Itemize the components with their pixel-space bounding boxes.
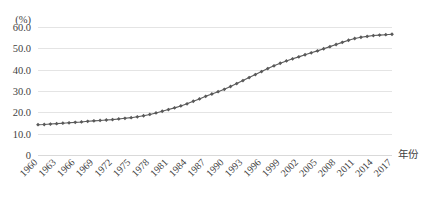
data-point-marker [191, 99, 195, 103]
x-axis-tick-label: 1978 [129, 157, 151, 179]
data-point-marker [117, 117, 121, 121]
data-point-marker [142, 114, 146, 118]
data-point-marker [309, 51, 313, 55]
x-axis-tick-label: 1993 [222, 157, 244, 179]
data-point-marker [210, 92, 214, 96]
data-point-marker [253, 73, 257, 77]
x-axis-tick-label: 1963 [36, 157, 58, 179]
data-point-marker [123, 116, 127, 120]
data-point-marker [378, 33, 382, 37]
gridlines [38, 28, 392, 156]
data-point-marker [167, 108, 171, 112]
data-point-marker [353, 37, 357, 41]
x-axis-tick-label: 1990 [204, 157, 226, 179]
data-point-marker [297, 55, 301, 59]
y-axis-tick-label: 40.0 [13, 65, 31, 76]
chart-canvas: 60.050.040.030.020.010.00 19601963196619… [0, 0, 430, 201]
urbanization-series-line [38, 34, 392, 124]
data-point-marker [303, 53, 307, 57]
y-axis-tick-label: 10.0 [13, 129, 31, 140]
data-point-marker [49, 122, 53, 126]
data-point-marker [73, 120, 77, 124]
data-point-marker [285, 59, 289, 63]
data-point-marker [42, 123, 46, 127]
y-axis-tick-label: 20.0 [13, 107, 31, 118]
data-point-marker [247, 76, 251, 80]
data-point-marker [241, 79, 245, 83]
x-axis-title: 年份 [398, 148, 419, 160]
data-point-marker [129, 116, 133, 120]
data-point-marker [185, 102, 189, 106]
data-point-marker [328, 45, 332, 49]
data-point-marker [86, 119, 90, 123]
data-point-marker [334, 43, 338, 47]
data-point-marker [148, 113, 152, 117]
data-point-marker [111, 118, 115, 122]
data-point-marker [36, 123, 40, 127]
data-point-marker [135, 115, 139, 119]
data-point-marker [371, 34, 375, 38]
data-point-marker [390, 32, 394, 36]
data-point-marker [229, 85, 233, 89]
x-axis-tick-label: 1960 [17, 157, 39, 179]
data-point-marker [198, 97, 202, 101]
data-point-marker [154, 111, 158, 115]
data-point-marker [322, 47, 326, 51]
data-point-marker [384, 33, 388, 37]
x-axis-tick-label: 1984 [167, 157, 189, 179]
data-point-marker [291, 57, 295, 61]
y-axis-tick-label: 50.0 [13, 43, 31, 54]
data-point-marker [67, 121, 71, 125]
x-axis-tick-label: 1972 [92, 157, 114, 179]
data-point-marker [98, 119, 102, 123]
data-point-marker [80, 120, 84, 124]
x-axis-tick-label: 1987 [185, 157, 207, 179]
data-point-marker [266, 67, 270, 71]
data-point-marker [316, 49, 320, 53]
data-point-marker [55, 122, 59, 126]
x-axis-tick-label: 2014 [353, 157, 375, 179]
x-axis-tick-label: 1969 [73, 157, 95, 179]
x-axis-tick-label: 2002 [278, 157, 300, 179]
data-point-marker [216, 90, 220, 94]
data-point-marker [104, 118, 108, 122]
y-axis-unit-label: (%) [15, 14, 31, 26]
x-axis-tick-label: 1975 [111, 157, 133, 179]
x-axis-tick-label: 1999 [260, 157, 282, 179]
urbanization-rate-line-chart: 60.050.040.030.020.010.00 19601963196619… [0, 0, 430, 201]
x-axis-tick-label: 2011 [334, 157, 356, 179]
data-point-marker [347, 38, 351, 42]
x-axis-tick-label: 1981 [148, 157, 170, 179]
data-point-marker [340, 40, 344, 44]
x-axis-tick-label: 1996 [241, 157, 263, 179]
y-axis-tick-label: 30.0 [13, 86, 31, 97]
data-point-marker [204, 94, 208, 98]
x-axis-tick-label: 2005 [297, 157, 319, 179]
x-axis-tick-label: 2008 [316, 157, 338, 179]
data-point-marker [179, 104, 183, 108]
data-point-marker [272, 64, 276, 68]
data-point-marker [365, 34, 369, 38]
data-point-marker [235, 82, 239, 86]
x-axis-tick-label: 1966 [55, 157, 77, 179]
data-point-marker [92, 119, 96, 123]
y-axis-tick-labels: 60.050.040.030.020.010.00 [13, 22, 31, 161]
data-point-marker [61, 121, 65, 125]
data-point-marker [359, 35, 363, 39]
data-point-marker [173, 106, 177, 110]
data-point-marker [222, 87, 226, 91]
x-axis-tick-label: 2017 [371, 157, 393, 179]
x-axis-tick-labels: 1960196319661969197219751978198119841987… [17, 157, 393, 179]
data-point-marker [278, 61, 282, 65]
